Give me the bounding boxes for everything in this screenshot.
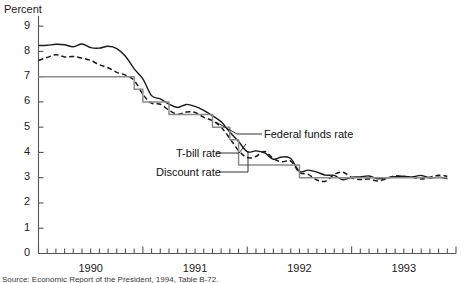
annotation-federal-funds-rate: Federal funds rate	[264, 128, 353, 140]
y-tick-label: 7	[4, 69, 30, 81]
y-tick-label: 6	[4, 94, 30, 106]
x-tick-label: 1992	[287, 262, 311, 274]
axis-lines	[39, 16, 457, 254]
y-tick-label: 5	[4, 120, 30, 132]
y-tick-label: 2	[4, 195, 30, 207]
y-tick-label: 8	[4, 44, 30, 56]
series-line-federal-funds-rate	[39, 44, 448, 180]
series-line-t-bill-rate	[39, 55, 448, 182]
y-tick-label: 9	[4, 19, 30, 31]
leader-discount-rate	[219, 151, 248, 172]
interest-rates-chart-figure: Percent 0123456789 1990199119921993 Fede…	[0, 0, 461, 283]
annotation-discount-rate: Discount rate	[156, 166, 221, 178]
y-tick-label: 4	[4, 145, 30, 157]
x-tick-label: 1993	[392, 262, 416, 274]
series-paths	[39, 44, 448, 182]
x-tick-label: 1990	[78, 262, 102, 274]
annotation-tbill-rate: T-bill rate	[176, 147, 221, 159]
y-tick-label: 1	[4, 221, 30, 233]
y-tick-label: 0	[4, 246, 30, 258]
x-tick-label: 1991	[183, 262, 207, 274]
chart-plot-area	[0, 0, 461, 283]
source-note: Source: Economic Report of the President…	[2, 275, 218, 283]
y-tick-label: 3	[4, 170, 30, 182]
series-line-discount-rate	[39, 77, 448, 178]
x-axis-ticks	[39, 247, 457, 254]
